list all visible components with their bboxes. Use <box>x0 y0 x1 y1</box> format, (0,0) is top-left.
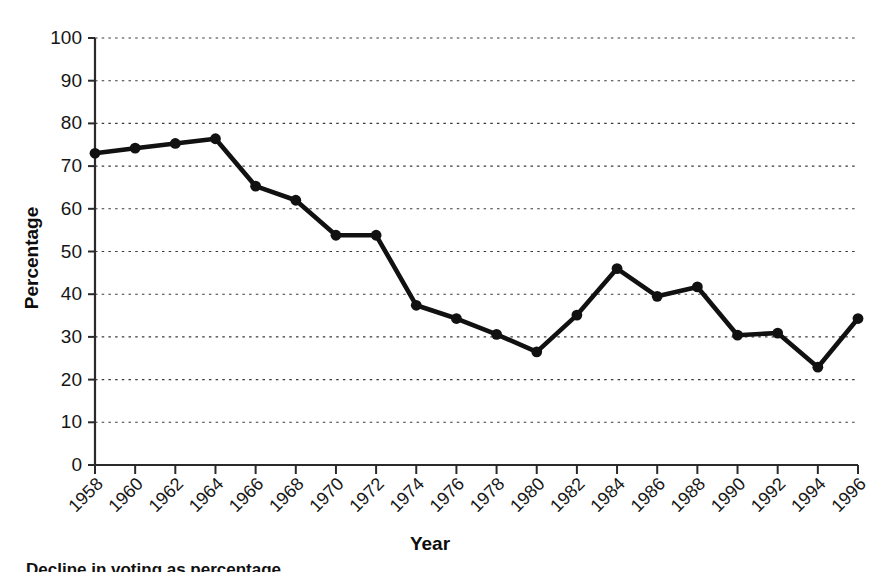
data-point-1990 <box>732 330 743 341</box>
data-point-1980 <box>531 346 542 357</box>
data-point-1982 <box>571 310 582 321</box>
y-tick-label-50: 50 <box>61 241 82 262</box>
y-tick-label-100: 100 <box>50 27 82 48</box>
data-point-1978 <box>491 329 502 340</box>
data-point-1962 <box>170 138 181 149</box>
data-point-1970 <box>331 230 342 241</box>
x-axis-tick-labels: 1958196019621964196619681970197219741976… <box>64 474 869 516</box>
x-tick-label-1994: 1994 <box>787 474 829 516</box>
y-tick-label-80: 80 <box>61 112 82 133</box>
data-point-1996 <box>853 313 864 324</box>
x-tick-label-1964: 1964 <box>185 474 227 516</box>
x-tick-label-1996: 1996 <box>827 474 869 516</box>
series-line-path <box>95 139 858 367</box>
data-series <box>90 133 864 372</box>
data-point-1974 <box>411 300 422 311</box>
x-tick-label-1970: 1970 <box>305 474 347 516</box>
data-point-1994 <box>812 362 823 373</box>
y-tick-label-70: 70 <box>61 155 82 176</box>
y-axis-tick-labels: 0102030405060708090100 <box>50 27 82 475</box>
x-axis-title: Year <box>410 533 451 554</box>
chart-figure: 0102030405060708090100 19581960196219641… <box>0 0 880 572</box>
data-point-1958 <box>90 148 101 159</box>
y-tick-label-20: 20 <box>61 369 82 390</box>
x-tick-label-1966: 1966 <box>225 474 267 516</box>
data-point-1966 <box>250 181 261 192</box>
x-tick-label-1980: 1980 <box>506 474 548 516</box>
x-tick-label-1960: 1960 <box>105 474 147 516</box>
data-point-1992 <box>772 328 783 339</box>
line-chart-canvas: 0102030405060708090100 19581960196219641… <box>0 0 880 572</box>
y-axis-title: Percentage <box>21 207 42 309</box>
x-tick-label-1968: 1968 <box>265 474 307 516</box>
y-tick-label-0: 0 <box>71 454 82 475</box>
figure-caption: Decline in voting as percentage <box>26 560 446 572</box>
x-tick-label-1984: 1984 <box>586 474 628 516</box>
data-point-1964 <box>210 133 221 144</box>
y-tick-label-40: 40 <box>61 283 82 304</box>
x-tick-label-1962: 1962 <box>145 474 187 516</box>
y-tick-label-90: 90 <box>61 70 82 91</box>
gridlines <box>95 38 856 422</box>
data-point-1976 <box>451 313 462 324</box>
x-axis-ticks <box>95 465 858 474</box>
x-tick-label-1990: 1990 <box>707 474 749 516</box>
x-tick-label-1992: 1992 <box>747 474 789 516</box>
x-tick-label-1972: 1972 <box>345 474 387 516</box>
data-point-1968 <box>290 195 301 206</box>
x-tick-label-1974: 1974 <box>386 474 428 516</box>
y-tick-label-60: 60 <box>61 198 82 219</box>
data-point-1988 <box>692 282 703 293</box>
x-tick-label-1986: 1986 <box>627 474 669 516</box>
y-tick-label-10: 10 <box>61 411 82 432</box>
data-point-1960 <box>130 143 141 154</box>
x-tick-label-1976: 1976 <box>426 474 468 516</box>
x-tick-label-1988: 1988 <box>667 474 709 516</box>
data-point-1972 <box>371 230 382 241</box>
data-point-1986 <box>652 291 663 302</box>
x-tick-label-1958: 1958 <box>64 474 106 516</box>
x-tick-label-1982: 1982 <box>546 474 588 516</box>
y-tick-label-30: 30 <box>61 326 82 347</box>
x-tick-label-1978: 1978 <box>466 474 508 516</box>
data-point-1984 <box>612 263 623 274</box>
